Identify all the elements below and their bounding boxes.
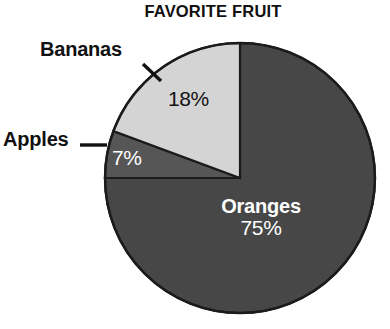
pie-chart-figure: FAVORITE FRUIT Bananas Apples 18% 7% Ora… <box>0 0 390 329</box>
slice-label-oranges: Oranges 75% <box>205 196 317 239</box>
slice-value-bananas: 18% <box>168 87 209 111</box>
callout-label-apples: Apples <box>3 128 68 151</box>
callout-label-bananas: Bananas <box>40 38 122 61</box>
slice-name-oranges: Oranges <box>205 196 317 217</box>
slice-value-apples: 7% <box>112 146 142 170</box>
slice-value-oranges: 75% <box>205 217 317 239</box>
